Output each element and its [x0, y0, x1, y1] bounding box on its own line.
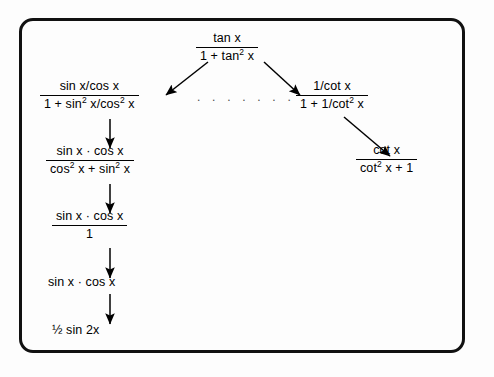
node-left-5-result: ½ sin 2x [50, 323, 150, 338]
expression-sin-cos-product: sin x · cos x [46, 275, 117, 290]
node-right-2-expression: cot x cot2 x + 1 [356, 143, 452, 176]
fraction-left-2-denominator: cos2 x + sin2 x [46, 160, 134, 177]
fraction-left-2-numerator: sin x · cos x [46, 144, 134, 160]
fraction-top-numerator: tan x [196, 31, 258, 47]
node-right-1-expression: 1/cot x 1 + 1/cot2 x [296, 79, 404, 112]
fraction-left-1: sin x/cos x 1 + sin2 x/cos2 x [40, 79, 139, 112]
fraction-left-1-numerator: sin x/cos x [40, 79, 139, 95]
fraction-left-3-denominator: 1 [52, 225, 127, 242]
fraction-right-2-denominator: cot2 x + 1 [356, 159, 417, 176]
diagram-canvas: tan x 1 + tan2 x sin x/cos x 1 + sin2 x/… [0, 0, 494, 377]
node-left-4-expression: sin x · cos x [46, 275, 164, 290]
ellipsis-separator: . . . . . . . . [197, 90, 310, 104]
fraction-top-denominator: 1 + tan2 x [196, 47, 258, 64]
node-left-3-expression: sin x · cos x 1 [52, 209, 164, 242]
node-top-expression: tan x 1 + tan2 x [196, 31, 290, 64]
fraction-top: tan x 1 + tan2 x [196, 31, 258, 64]
expression-half-sin-2x: ½ sin 2x [50, 323, 101, 338]
fraction-left-3-numerator: sin x · cos x [52, 209, 127, 225]
node-left-2-expression: sin x · cos x cos2 x + sin2 x [46, 144, 170, 177]
fraction-left-1-denominator: 1 + sin2 x/cos2 x [40, 95, 139, 112]
fraction-left-3: sin x · cos x 1 [52, 209, 127, 242]
fraction-left-2: sin x · cos x cos2 x + sin2 x [46, 144, 134, 177]
fraction-right-2-numerator: cot x [356, 143, 417, 159]
diagram-frame-border [19, 18, 465, 353]
fraction-right-2: cot x cot2 x + 1 [356, 143, 417, 176]
node-left-1-expression: sin x/cos x 1 + sin2 x/cos2 x [40, 79, 192, 112]
